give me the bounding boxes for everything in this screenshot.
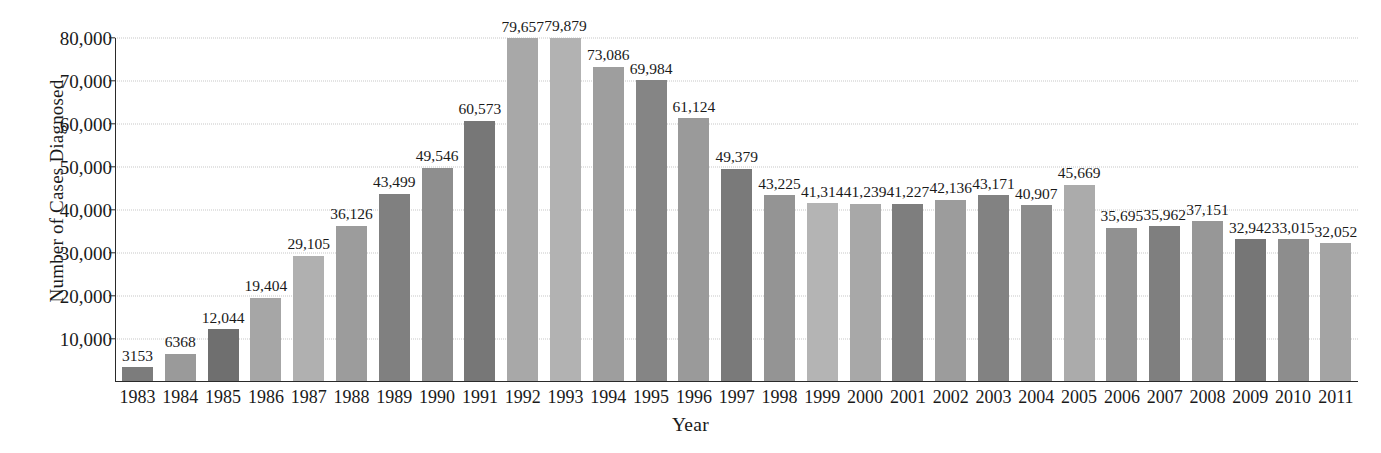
x-axis-title: Year — [0, 414, 1381, 436]
bar-value-label: 29,105 — [287, 236, 330, 252]
x-axis-tick-label: 1991 — [458, 388, 502, 406]
bar-value-label: 42,136 — [929, 180, 972, 196]
bar[interactable] — [764, 195, 795, 381]
bar-group[interactable]: 36,126 — [336, 10, 367, 382]
bar[interactable] — [1149, 226, 1180, 381]
bar-group[interactable]: 32,942 — [1235, 10, 1266, 382]
bar-group[interactable]: 43,225 — [764, 10, 795, 382]
bar[interactable] — [721, 169, 752, 381]
y-axis-tick-label: 70,000 — [40, 72, 112, 91]
x-axis-tick-labels: 1983198419851986198719881989199019911992… — [115, 388, 1364, 414]
bar[interactable] — [336, 226, 367, 381]
bar-group[interactable]: 43,499 — [379, 10, 410, 382]
bar[interactable] — [678, 118, 709, 381]
x-axis-tick-label: 2004 — [1014, 388, 1058, 406]
x-axis-tick-label: 1983 — [116, 388, 160, 406]
bar-value-label: 43,225 — [758, 176, 801, 192]
bar[interactable] — [850, 204, 881, 381]
bar-group[interactable]: 42,136 — [935, 10, 966, 382]
bar-value-label: 35,695 — [1101, 208, 1144, 224]
bar-value-label: 32,052 — [1315, 224, 1358, 240]
bar[interactable] — [978, 195, 1009, 381]
bar-group[interactable]: 6368 — [165, 10, 196, 382]
y-axis-tick-label: 20,000 — [40, 287, 112, 306]
bar-value-label: 41,314 — [801, 184, 844, 200]
bar-group[interactable]: 60,573 — [464, 10, 495, 382]
bar-value-label: 19,404 — [245, 278, 288, 294]
bar-value-label: 33,015 — [1272, 220, 1315, 236]
bar[interactable] — [1021, 205, 1052, 381]
bar[interactable] — [293, 256, 324, 381]
bar[interactable] — [636, 80, 667, 381]
plot-area: 3153636812,04419,40429,10536,12643,49949… — [115, 10, 1364, 382]
x-axis-tick-label: 2008 — [1186, 388, 1230, 406]
x-axis-tick-label: 1995 — [629, 388, 673, 406]
bar[interactable] — [422, 168, 453, 381]
bar-value-label: 43,171 — [972, 176, 1015, 192]
bar-group[interactable]: 19,404 — [250, 10, 281, 382]
bar[interactable] — [550, 38, 581, 381]
bar-group[interactable]: 43,171 — [978, 10, 1009, 382]
bar-group[interactable]: 49,379 — [721, 10, 752, 382]
x-axis-tick-label: 1994 — [586, 388, 630, 406]
bar[interactable] — [250, 298, 281, 381]
bar-group[interactable]: 69,984 — [636, 10, 667, 382]
bar-group[interactable]: 3153 — [122, 10, 153, 382]
bar-group[interactable]: 79,657 — [507, 10, 538, 382]
bar-group[interactable]: 35,695 — [1106, 10, 1137, 382]
bar[interactable] — [935, 200, 966, 381]
bar[interactable] — [892, 204, 923, 381]
bar-group[interactable]: 49,546 — [422, 10, 453, 382]
bar-group[interactable]: 79,879 — [550, 10, 581, 382]
y-axis-tick-label: 60,000 — [40, 115, 112, 134]
bar[interactable] — [1278, 239, 1309, 381]
bar-value-label: 49,379 — [715, 149, 758, 165]
bar-group[interactable]: 35,962 — [1149, 10, 1180, 382]
bar-group[interactable]: 41,314 — [807, 10, 838, 382]
y-axis-tick-label: 80,000 — [40, 29, 112, 48]
bar[interactable] — [122, 367, 153, 381]
bar[interactable] — [1064, 185, 1095, 381]
bar[interactable] — [464, 121, 495, 381]
x-axis-tick-label: 1993 — [544, 388, 588, 406]
bar-value-label: 41,239 — [844, 184, 887, 200]
bar[interactable] — [593, 67, 624, 381]
x-axis-tick-label: 1985 — [201, 388, 245, 406]
x-axis-tick-label: 2001 — [886, 388, 930, 406]
bar-group[interactable]: 29,105 — [293, 10, 324, 382]
bar[interactable] — [807, 203, 838, 381]
bar[interactable] — [208, 329, 239, 381]
bar-chart: Number of Cases Diagnosed 80,00070,00060… — [0, 0, 1381, 453]
bar[interactable] — [1320, 243, 1351, 381]
bar-group[interactable]: 41,227 — [892, 10, 923, 382]
bar[interactable] — [1192, 221, 1223, 381]
bar-group[interactable]: 45,669 — [1064, 10, 1095, 382]
bar[interactable] — [507, 38, 538, 381]
bar[interactable] — [1235, 239, 1266, 381]
bar-group[interactable]: 40,907 — [1021, 10, 1052, 382]
bar-value-label: 6368 — [165, 334, 196, 350]
x-axis-tick-label: 2003 — [972, 388, 1016, 406]
x-axis-tick-label: 2002 — [929, 388, 973, 406]
bar[interactable] — [165, 354, 196, 381]
x-axis-tick-label: 2011 — [1314, 388, 1358, 406]
y-axis-tick-label: 50,000 — [40, 158, 112, 177]
bar-group[interactable]: 37,151 — [1192, 10, 1223, 382]
bar-group[interactable]: 33,015 — [1278, 10, 1309, 382]
y-axis-tick-labels: 80,00070,00060,00050,00040,00030,00020,0… — [38, 0, 112, 453]
bar-value-label: 43,499 — [373, 174, 416, 190]
bar[interactable] — [1106, 228, 1137, 381]
bar[interactable] — [379, 194, 410, 381]
bar-group[interactable]: 61,124 — [678, 10, 709, 382]
x-axis-tick-label: 1999 — [800, 388, 844, 406]
bar-group[interactable]: 12,044 — [208, 10, 239, 382]
x-axis-tick-label: 1988 — [330, 388, 374, 406]
bar-value-label: 60,573 — [459, 101, 502, 117]
x-axis-tick-label: 1998 — [758, 388, 802, 406]
bar-value-label: 12,044 — [202, 310, 245, 326]
bar-group[interactable]: 41,239 — [850, 10, 881, 382]
x-axis-tick-label: 2010 — [1271, 388, 1315, 406]
y-axis-tick-label: 30,000 — [40, 244, 112, 263]
bar-group[interactable]: 32,052 — [1320, 10, 1351, 382]
bar-group[interactable]: 73,086 — [593, 10, 624, 382]
